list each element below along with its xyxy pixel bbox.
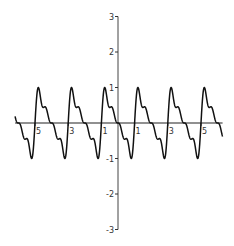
- y-tick-label: -3: [106, 226, 114, 235]
- y-tick-label: 2: [109, 48, 114, 57]
- y-tick-label: 1: [109, 84, 114, 93]
- y-tick-label: -1: [106, 155, 114, 164]
- x-tick-label: 3: [69, 127, 74, 136]
- plot-area: 531135 321-1-2-3: [0, 0, 234, 246]
- x-tick-label: 5: [202, 127, 207, 136]
- x-tick-label: 1: [136, 127, 141, 136]
- x-tick-label: 5: [36, 127, 41, 136]
- x-tick-label: 1: [102, 127, 107, 136]
- x-tick-label: 3: [169, 127, 174, 136]
- y-tick-label: -2: [106, 190, 114, 199]
- y-tick-label: 3: [109, 13, 114, 22]
